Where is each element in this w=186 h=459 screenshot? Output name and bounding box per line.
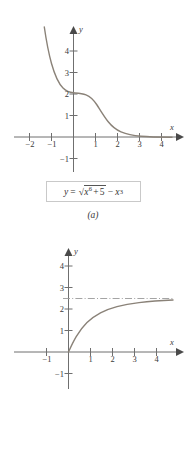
equation-a-radicand: x6+5 [84, 185, 105, 198]
y-axis-label-a: y [79, 24, 83, 34]
curve-a [44, 27, 172, 137]
y-tick-label-b-4: 4 [52, 261, 64, 271]
y-tick-label-b-2: 2 [52, 304, 64, 314]
y-axis-label-b: y [74, 246, 78, 256]
x-tick-label-a-3: 2 [111, 139, 124, 149]
x-tick-label-b-1: 1 [84, 354, 97, 364]
x-tick-label-a-5: 4 [155, 139, 168, 149]
x-tick-label-b-3: 3 [128, 354, 141, 364]
y-tick-label-a-3: 3 [57, 68, 69, 78]
y-tick-label-a-1: 1 [57, 111, 69, 121]
y-axis-a [70, 26, 78, 172]
x-axis-label-a: x [170, 122, 174, 132]
y-tick-label-a-2: 2 [57, 89, 69, 99]
equation-a-term-exp: 3 [120, 188, 123, 195]
figure-panel-b: y x −1 1 2 3 4 4 3 2 1 −1 y = 5 2 y = √x… [0, 229, 186, 459]
y-tick-label-b-neg1: −1 [47, 369, 64, 379]
x-tick-label-a-1: −1 [44, 139, 60, 149]
figure-panel-a: y x −2 −1 1 2 3 4 4 3 2 1 −1 y = √x6+5 −… [0, 0, 186, 230]
equation-a-radical: √x6+5 [78, 185, 106, 198]
plot-area-a [0, 0, 186, 180]
equation-a-rad-const: 5 [100, 187, 105, 197]
equation-box-a: y = √x6+5 − x3 [46, 181, 141, 202]
equation-a-equals: = [68, 187, 78, 197]
graph-a [0, 0, 186, 180]
panel-caption-a: (a) [0, 210, 186, 220]
y-tick-label-a-4: 4 [57, 46, 69, 56]
graph-b [0, 229, 186, 409]
y-tick-label-b-3: 3 [52, 283, 64, 293]
equation-a-rad-plus: + [92, 187, 100, 197]
equation-a-minus: − [106, 187, 116, 197]
y-axis-b [65, 248, 73, 389]
y-tick-label-b-1: 1 [52, 326, 64, 336]
y-tick-label-a-neg1: −1 [52, 154, 69, 164]
x-tick-label-b-4: 4 [150, 354, 163, 364]
x-tick-label-a-0: −2 [22, 139, 38, 149]
x-tick-label-a-4: 3 [133, 139, 146, 149]
x-tick-label-b-2: 2 [106, 354, 119, 364]
x-axis-label-b: x [170, 337, 174, 347]
curve-b [69, 300, 174, 352]
plot-area-b [0, 229, 186, 409]
x-tick-label-a-2: 1 [89, 139, 102, 149]
x-tick-label-b-0: −1 [39, 354, 55, 364]
